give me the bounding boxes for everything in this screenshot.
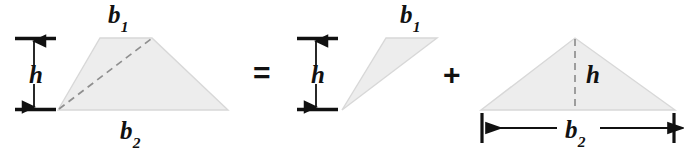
label-h-right: h [586, 62, 600, 87]
plus-operator: + [443, 60, 461, 90]
equals-operator: = [253, 58, 271, 88]
label-b2-wide-triangle: b2 [565, 117, 585, 147]
label-b1-trapezoid: b1 [108, 2, 128, 32]
thin-triangle-body [342, 38, 437, 110]
label-h-left: h [29, 62, 43, 87]
trapezoid-decomposition-figure: b1 b2 h = h b1 + h b2 [0, 0, 684, 151]
wide-triangle-shape [481, 38, 675, 110]
trapezoid-shape [58, 38, 228, 110]
wide-triangle-body [481, 38, 675, 110]
trapezoid-body [58, 38, 228, 110]
thin-triangle-shape [342, 38, 437, 110]
label-h-middle: h [311, 62, 325, 87]
label-b1-thin-triangle: b1 [400, 2, 420, 32]
label-b2-trapezoid: b2 [120, 118, 140, 148]
